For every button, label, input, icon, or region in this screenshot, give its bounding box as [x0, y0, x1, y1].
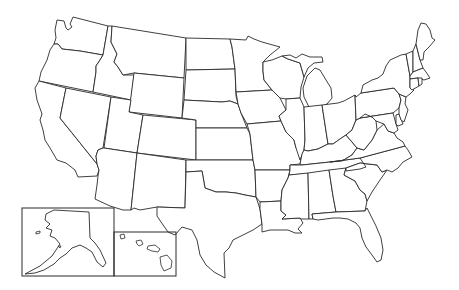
- state-montana[interactable]: [111, 26, 186, 78]
- state-arizona[interactable]: [95, 148, 137, 210]
- state-maine[interactable]: [416, 23, 435, 60]
- state-connecticut[interactable]: [410, 78, 419, 90]
- state-south-dakota[interactable]: [184, 69, 238, 104]
- state-colorado[interactable]: [137, 115, 196, 160]
- state-wyoming[interactable]: [129, 73, 184, 118]
- alaska-island: [36, 231, 40, 234]
- state-new-mexico[interactable]: [131, 153, 186, 210]
- hawaii-big-island[interactable]: [160, 255, 172, 271]
- hawaii-oahu[interactable]: [136, 240, 143, 246]
- us-states-outline-map: [0, 0, 459, 290]
- state-rhode-island[interactable]: [418, 78, 422, 86]
- state-michigan-lower[interactable]: [303, 68, 332, 109]
- hawaii-maui-molokai[interactable]: [147, 245, 160, 252]
- state-new-jersey[interactable]: [399, 94, 408, 122]
- state-kansas[interactable]: [196, 128, 253, 160]
- hawaii-kauai[interactable]: [120, 234, 125, 239]
- state-florida[interactable]: [312, 208, 383, 262]
- state-north-dakota[interactable]: [186, 38, 235, 70]
- state-alaska[interactable]: [25, 210, 106, 274]
